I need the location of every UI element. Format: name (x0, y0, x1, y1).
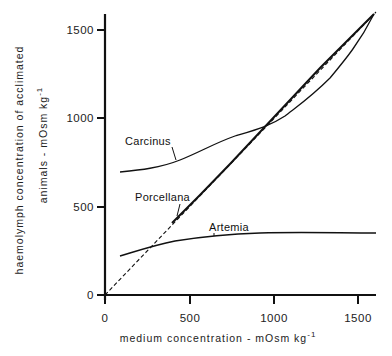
y-tick-label-500: 500 (73, 201, 94, 213)
carcinus-leader (172, 147, 176, 160)
carcinus-label: Carcinus (125, 135, 171, 147)
x-axis-title: medium concentration - mOsm kg-1 (120, 330, 317, 344)
chart-canvas: 0 500 1000 1500 0 500 1000 1500 medium c… (0, 0, 392, 356)
x-tick-label-1500: 1500 (344, 312, 372, 324)
artemia-label: Artemia (209, 221, 250, 233)
y-axis-title-line2: animals - mOsm kg-1 (35, 87, 49, 204)
x-ticks (105, 295, 358, 304)
artemia-curve (120, 233, 376, 256)
x-tick-label-0: 0 (102, 312, 109, 324)
carcinus-curve (120, 14, 374, 172)
y-axis-title-line1: haemolymph concentration of acclimated (13, 46, 25, 275)
y-tick-label-0: 0 (87, 289, 94, 301)
porcellana-label: Porcellana (135, 191, 191, 203)
x-tick-label-500: 500 (180, 312, 201, 324)
y-tick-label-1500: 1500 (66, 24, 94, 36)
y-ticks (97, 30, 105, 295)
porcellana-curve (172, 14, 374, 223)
y-tick-label-1000: 1000 (66, 112, 94, 124)
x-tick-label-1000: 1000 (260, 312, 288, 324)
